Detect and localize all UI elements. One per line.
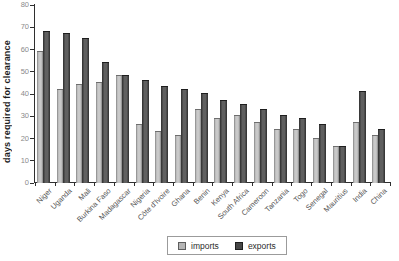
y-tick-mark <box>30 5 34 6</box>
bar-exports-togo <box>299 118 306 183</box>
x-tick-mark <box>370 183 371 186</box>
bar-exports-mali <box>82 38 89 183</box>
x-tick-mark <box>35 183 36 186</box>
legend-item-exports: exports <box>235 241 276 251</box>
y-axis-line <box>34 4 35 183</box>
x-tick-mark <box>74 183 75 186</box>
legend-imports-swatch-icon <box>178 242 186 250</box>
y-tick-mark <box>30 138 34 139</box>
bar-exports-nigeria <box>142 80 149 183</box>
x-tick-mark <box>134 183 135 186</box>
y-tick-label: 30 <box>10 112 29 120</box>
y-tick-label: 60 <box>10 46 29 54</box>
y-tick-label: 80 <box>10 1 29 9</box>
y-tick-mark <box>30 94 34 95</box>
y-tick-label: 70 <box>10 23 29 31</box>
y-tick-mark <box>30 49 34 50</box>
bar-exports-uganda <box>63 33 70 183</box>
legend-exports-swatch-icon <box>235 242 243 250</box>
bar-chart-figure: days required for clearance importsexpor… <box>0 0 399 261</box>
y-tick-mark <box>30 27 34 28</box>
x-tick-mark <box>193 183 194 186</box>
bar-exports-india <box>359 91 366 183</box>
legend-exports-label: exports <box>248 241 276 251</box>
bar-exports-kenya <box>220 100 227 183</box>
x-tick-mark <box>311 183 312 186</box>
bar-exports-tanzania <box>280 115 287 183</box>
y-tick-mark <box>30 71 34 72</box>
x-tick-mark <box>55 183 56 186</box>
y-tick-label: 10 <box>10 157 29 165</box>
bar-exports-senegal <box>319 124 326 183</box>
x-tick-mark <box>94 183 95 186</box>
bar-exports-mauritius <box>339 146 346 183</box>
y-tick-label: 0 <box>10 179 29 187</box>
bar-exports-burkina-faso <box>102 62 109 183</box>
legend-box: importsexports <box>167 236 287 255</box>
x-tick-mark <box>212 183 213 186</box>
y-tick-label: 50 <box>10 68 29 76</box>
bar-exports-south-africa <box>240 104 247 183</box>
x-tick-mark <box>272 183 273 186</box>
x-tick-mark <box>114 183 115 186</box>
x-tick-mark <box>173 183 174 186</box>
x-tick-mark <box>291 183 292 186</box>
bar-exports-china <box>378 129 385 183</box>
x-tick-mark <box>252 183 253 186</box>
y-tick-mark <box>30 183 34 184</box>
y-tick-mark <box>30 116 34 117</box>
bar-exports-cameroon <box>260 109 267 183</box>
bar-exports-madagascar <box>122 75 129 183</box>
x-tick-mark <box>331 183 332 186</box>
x-tick-mark <box>351 183 352 186</box>
legend-imports-label: imports <box>191 241 219 251</box>
bar-exports-benin <box>201 93 208 183</box>
y-tick-label: 40 <box>10 90 29 98</box>
bar-exports-c-te-d-ivoire <box>161 86 168 183</box>
legend-item-imports: imports <box>178 241 219 251</box>
y-tick-mark <box>30 160 34 161</box>
bar-exports-niger <box>43 31 50 183</box>
x-tick-mark <box>390 183 391 186</box>
bar-exports-ghana <box>181 89 188 183</box>
x-tick-mark <box>153 183 154 186</box>
x-tick-mark <box>232 183 233 186</box>
y-tick-label: 20 <box>10 135 29 143</box>
